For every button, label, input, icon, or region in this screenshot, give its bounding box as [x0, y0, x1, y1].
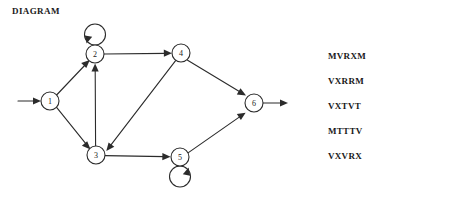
- list-item: MTTTV: [328, 127, 366, 152]
- edge-2-self-loop: [85, 24, 106, 45]
- diagram-panel: DIAGRAM: [0, 0, 300, 200]
- node-2[interactable]: 2: [86, 45, 104, 63]
- node-5-label: 5: [178, 153, 182, 162]
- node-4-label: 4: [179, 49, 183, 58]
- edge-5-to-6: [188, 113, 245, 153]
- edge-4-to-6: [188, 60, 246, 95]
- legal-sentences-list: MVRXM VXRRM VXTVT MTTTV VXVRX: [328, 52, 366, 177]
- edge-3-to-2: [92, 63, 99, 146]
- edge-4-to-3: [106, 61, 175, 151]
- edge-entry-to-1: [18, 97, 41, 104]
- node-1[interactable]: 1: [41, 92, 59, 110]
- figure-root: DIAGRAM: [0, 0, 450, 200]
- node-5[interactable]: 5: [171, 148, 189, 166]
- state-diagram-graph: 1 2 3 4 5 6: [0, 0, 300, 200]
- list-item: VXRRM: [328, 77, 366, 102]
- list-item: VXTVT: [328, 102, 366, 127]
- node-6-label: 6: [252, 99, 256, 108]
- edge-1-to-3: [57, 107, 91, 149]
- edge-1-to-2: [57, 60, 90, 95]
- node-2-label: 2: [93, 50, 97, 59]
- list-item: MVRXM: [328, 52, 366, 77]
- node-3-label: 3: [94, 151, 98, 160]
- legal-sentences-panel: LEGAL SENTENCES MVRXM VXRRM VXTVT MTTTV …: [300, 0, 450, 200]
- edge-3-to-5: [105, 153, 170, 160]
- node-6[interactable]: 6: [245, 94, 263, 112]
- edge-2-to-4: [104, 50, 172, 57]
- node-4[interactable]: 4: [172, 44, 190, 62]
- node-3[interactable]: 3: [87, 146, 105, 164]
- edge-5-self-loop: [170, 166, 191, 187]
- list-item: VXVRX: [328, 152, 366, 177]
- node-1-label: 1: [48, 97, 52, 106]
- edge-6-to-exit: [263, 99, 288, 106]
